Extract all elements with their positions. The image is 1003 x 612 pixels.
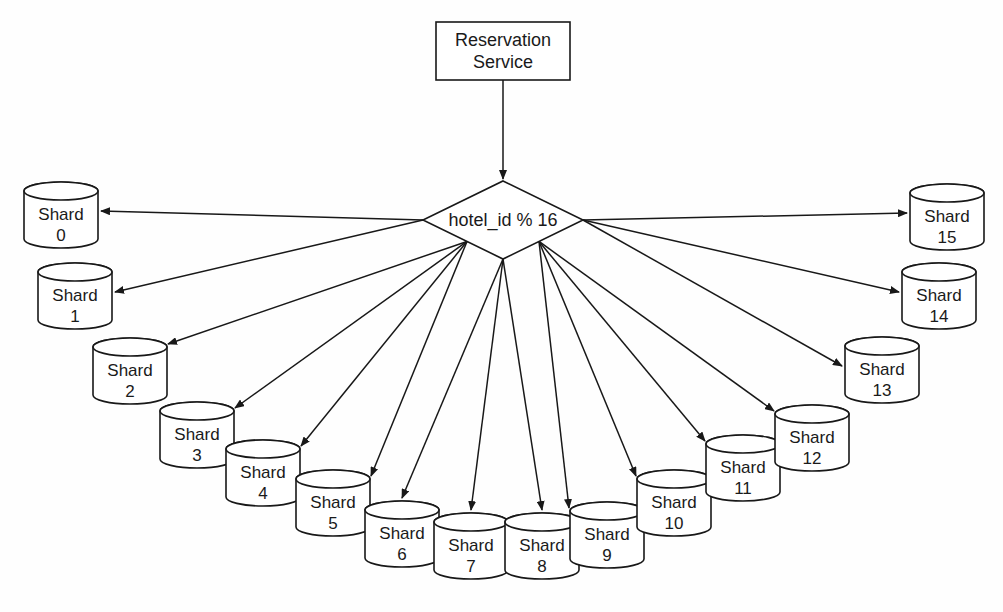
shard-label-text-5: Shard xyxy=(310,493,355,512)
shard-node-7[interactable]: Shard7 xyxy=(434,513,508,579)
nodes-layer: ReservationServicehotel_id % 16Shard0Sha… xyxy=(24,22,984,579)
shard-label-text-9: Shard xyxy=(584,525,629,544)
shard-node-15[interactable]: Shard15 xyxy=(910,184,984,250)
shard-node-3[interactable]: Shard3 xyxy=(160,402,234,468)
shard-node-8[interactable]: Shard8 xyxy=(505,513,579,579)
edge-router-to-shard-13 xyxy=(583,220,842,366)
shard-node-9[interactable]: Shard9 xyxy=(570,502,644,568)
cylinder-top-ellipse xyxy=(902,263,976,281)
shard-label-text-14: Shard xyxy=(916,286,961,305)
shard-node-5[interactable]: Shard5 xyxy=(296,470,370,536)
shard-label-text-2: Shard xyxy=(107,361,152,380)
shard-label-text-11: Shard xyxy=(720,458,765,477)
edge-router-to-shard-14 xyxy=(583,220,899,292)
cylinder-top-ellipse xyxy=(775,405,849,423)
shard-node-4[interactable]: Shard4 xyxy=(226,440,300,506)
shard-node-6[interactable]: Shard6 xyxy=(365,501,439,567)
reservation-service-node[interactable]: ReservationService xyxy=(436,22,570,80)
cylinder-top-ellipse xyxy=(505,513,579,531)
shard-number-text-12: 12 xyxy=(803,449,822,468)
shard-number-text-4: 4 xyxy=(258,484,267,503)
shard-label-text-3: Shard xyxy=(174,425,219,444)
shard-node-12[interactable]: Shard12 xyxy=(775,405,849,471)
diagram-canvas: ReservationServicehotel_id % 16Shard0Sha… xyxy=(0,0,1003,612)
edge-router-to-shard-15 xyxy=(583,213,907,220)
shard-number-text-2: 2 xyxy=(125,382,134,401)
shard-label-text-12: Shard xyxy=(789,428,834,447)
shard-label-text-7: Shard xyxy=(448,536,493,555)
edge-router-to-shard-2 xyxy=(168,241,467,344)
shard-number-text-0: 0 xyxy=(56,226,65,245)
edge-router-to-shard-8 xyxy=(503,259,542,510)
cylinder-top-ellipse xyxy=(910,184,984,202)
shard-node-10[interactable]: Shard10 xyxy=(637,470,711,536)
edge-router-to-shard-11 xyxy=(539,241,705,441)
shard-router-label: hotel_id % 16 xyxy=(448,210,557,231)
shard-label-text-1: Shard xyxy=(52,286,97,305)
shard-router-node[interactable]: hotel_id % 16 xyxy=(423,181,583,259)
shard-node-0[interactable]: Shard0 xyxy=(24,182,98,248)
shard-node-2[interactable]: Shard2 xyxy=(93,338,167,404)
shard-number-text-10: 10 xyxy=(665,514,684,533)
shard-label-text-4: Shard xyxy=(240,463,285,482)
reservation-service-label-line2: Service xyxy=(473,52,533,72)
cylinder-top-ellipse xyxy=(845,337,919,355)
shard-label-text-8: Shard xyxy=(519,536,564,555)
cylinder-top-ellipse xyxy=(570,502,644,520)
cylinder-top-ellipse xyxy=(434,513,508,531)
shard-number-text-5: 5 xyxy=(328,514,337,533)
shard-node-14[interactable]: Shard14 xyxy=(902,263,976,329)
cylinder-top-ellipse xyxy=(296,470,370,488)
shard-label-text-6: Shard xyxy=(379,524,424,543)
shard-label-text-10: Shard xyxy=(651,493,696,512)
sharding-diagram: ReservationServicehotel_id % 16Shard0Sha… xyxy=(0,0,1003,612)
cylinder-top-ellipse xyxy=(226,440,300,458)
shard-label-text-13: Shard xyxy=(859,360,904,379)
edge-router-to-shard-1 xyxy=(115,220,423,292)
shard-number-text-8: 8 xyxy=(537,557,546,576)
edge-router-to-shard-9 xyxy=(539,241,569,508)
shard-number-text-13: 13 xyxy=(873,381,892,400)
shard-number-text-3: 3 xyxy=(192,446,201,465)
shard-number-text-11: 11 xyxy=(734,479,752,498)
cylinder-top-ellipse xyxy=(637,470,711,488)
shard-number-text-14: 14 xyxy=(930,307,949,326)
cylinder-top-ellipse xyxy=(160,402,234,420)
reservation-service-label-line1: Reservation xyxy=(455,30,551,50)
cylinder-top-ellipse xyxy=(38,263,112,281)
shard-number-text-7: 7 xyxy=(466,557,475,576)
cylinder-top-ellipse xyxy=(706,435,780,453)
cylinder-top-ellipse xyxy=(24,182,98,200)
shard-node-11[interactable]: Shard11 xyxy=(706,435,780,501)
shard-number-text-9: 9 xyxy=(602,546,611,565)
cylinder-top-ellipse xyxy=(365,501,439,519)
shard-number-text-1: 1 xyxy=(70,307,79,326)
shard-label-text-0: Shard xyxy=(38,205,83,224)
shard-number-text-15: 15 xyxy=(938,228,957,247)
edge-router-to-shard-0 xyxy=(101,211,423,220)
shard-label-text-15: Shard xyxy=(924,207,969,226)
shard-node-1[interactable]: Shard1 xyxy=(38,263,112,329)
edge-router-to-shard-4 xyxy=(301,241,467,446)
cylinder-top-ellipse xyxy=(93,338,167,356)
shard-node-13[interactable]: Shard13 xyxy=(845,337,919,403)
shard-number-text-6: 6 xyxy=(397,545,406,564)
